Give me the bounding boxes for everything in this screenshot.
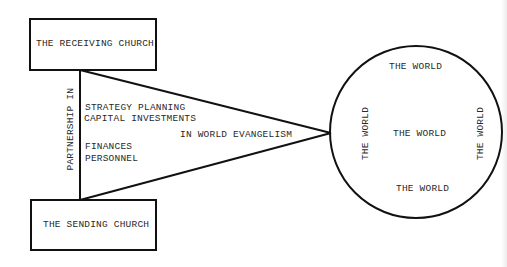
item-strategy-planning: STRATEGY PLANNING — [85, 102, 185, 113]
apex-label: IN WORLD EVANGELISM — [180, 129, 292, 140]
item-finances: FINANCES — [85, 141, 132, 152]
item-personnel: PERSONNEL — [85, 153, 138, 164]
partnership-vertical-label: PARTNERSHIP IN — [65, 91, 76, 171]
world-center-label: THE WORLD — [393, 128, 446, 139]
sending-church-label: THE SENDING CHURCH — [43, 219, 149, 230]
world-right-label: THE WORLD — [475, 99, 486, 169]
item-capital-investments: CAPITAL INVESTMENTS — [84, 113, 196, 124]
world-left-label: THE WORLD — [360, 99, 371, 169]
world-bottom-label: THE WORLD — [396, 183, 449, 194]
receiving-church-label: THE RECEIVING CHURCH — [36, 38, 154, 49]
world-top-label: THE WORLD — [389, 61, 442, 72]
